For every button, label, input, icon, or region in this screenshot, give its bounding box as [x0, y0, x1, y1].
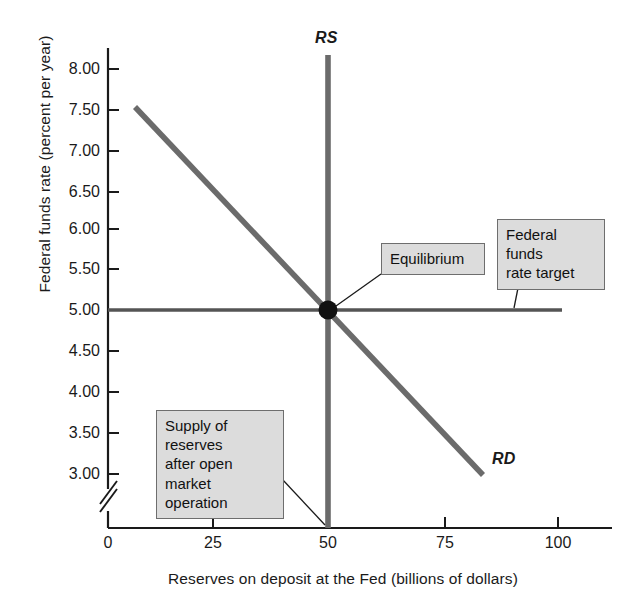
- rate-target-callout: Federal funds rate target: [497, 219, 605, 290]
- supply-note-callout: Supply of reserves after open market ope…: [156, 410, 284, 519]
- equilibrium-callout: Equilibrium: [381, 243, 485, 275]
- equilibrium-point-marker: [319, 301, 338, 320]
- supply-note-leader-line: [282, 479, 325, 525]
- figure-canvas: Federal funds rate (percent per year) Re…: [0, 0, 620, 610]
- reserve-supply-curve-label: RS: [315, 29, 338, 47]
- y-tick-marks: [108, 69, 119, 474]
- plot-area: [0, 0, 620, 610]
- equilibrium-leader-line: [336, 274, 381, 306]
- reserve-demand-curve-label: RD: [492, 450, 516, 468]
